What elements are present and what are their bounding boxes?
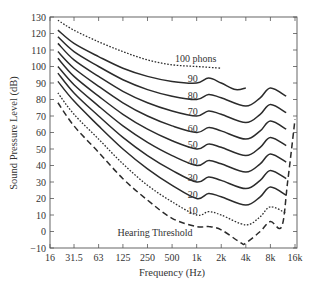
x-tick-label: 63 [94,252,104,263]
y-tick-label: 0 [41,226,46,237]
x-tick-label: 1k [192,252,202,263]
curve-hearing-threshold [58,103,295,245]
x-tick-label: 4k [241,252,251,263]
curve-label: 70 [188,106,198,117]
curve-label: 10 [188,205,198,216]
curve-label: 80 [188,90,198,101]
curve-60-phons [58,52,286,140]
x-tick-label: 250 [140,252,155,263]
curve-label: 40 [188,156,198,167]
y-tick-label: 120 [31,28,46,39]
x-tick-label: 125 [115,252,130,263]
curve-10-phons [58,93,286,225]
y-tick-label: 100 [31,61,46,72]
y-tick-label: −10 [30,243,46,254]
curve-label: 60 [188,123,198,134]
y-tick-label: 70 [36,111,46,122]
y-tick-label: 30 [36,177,46,188]
x-tick-label: 31.5 [65,252,83,263]
x-tick-label: 2k [216,252,226,263]
curve-label: 50 [188,139,198,150]
x-tick-label: 16 [45,252,55,263]
y-tick-label: 90 [36,78,46,89]
x-tick-label: 16k [288,252,303,263]
y-tick-label: 10 [36,210,46,221]
curve-label: 20 [188,189,198,200]
label-hearing-threshold: Hearing Threshold [117,227,192,238]
curve-label: 90 [188,73,198,84]
x-tick-label: 500 [165,252,180,263]
plot-frame [50,17,297,248]
y-tick-label: 110 [31,45,46,56]
equal-loudness-chart: 1301201101009080706050403020100−10 1631.… [0,0,315,284]
label-100-phons: 100 phons [175,53,217,64]
y-axis-title: Sound Pressure Level (dB) [8,76,20,190]
x-tick-label: 8k [265,252,275,263]
y-tick-label: 80 [36,94,46,105]
x-axis-title: Frequency (Hz) [139,267,206,279]
y-tick-label: 20 [36,193,46,204]
y-tick-label: 60 [36,127,46,138]
y-tick-label: 50 [36,144,46,155]
y-tick-label: 130 [31,12,46,23]
y-tick-label: 40 [36,160,46,171]
curve-label: 30 [188,172,198,183]
